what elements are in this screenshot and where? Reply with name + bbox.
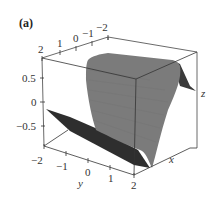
- y-bottom-tick-label: −2: [31, 155, 43, 166]
- y-bottom-tick-label: −1: [56, 161, 68, 172]
- x-axis-label: x: [169, 154, 174, 165]
- y-bottom-tick-label: 0: [85, 167, 91, 178]
- z-tick-label: 0.5: [22, 73, 36, 84]
- y-bottom-tick-label: 2: [131, 180, 137, 191]
- z-tick-label: −0.5: [16, 121, 36, 132]
- z-axis-label: z: [201, 88, 205, 99]
- y-top-tick-label: 1: [57, 38, 63, 49]
- y-top-tick-label: 0: [73, 33, 79, 44]
- y-top-tick-label: 2: [38, 44, 44, 55]
- y-top-tick-label: −2: [96, 22, 108, 33]
- y-axis-label: y: [78, 178, 83, 189]
- z-tick-label: 0: [31, 97, 37, 108]
- y-bottom-tick-label: 1: [108, 173, 114, 184]
- y-top-tick-label: −1: [82, 28, 94, 39]
